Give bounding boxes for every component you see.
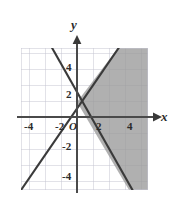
x-axis-label: x [161, 110, 168, 123]
origin-label: O [69, 121, 77, 132]
y-tick-neg4: -4 [62, 171, 71, 182]
y-axis-arrowhead [73, 35, 82, 44]
x-tick-pos4: 4 [127, 121, 133, 132]
y-tick-pos2: 2 [66, 89, 72, 100]
y-axis-label: y [71, 18, 77, 31]
graph-figure: y x -4 -2 O 2 4 4 2 -2 -4 [0, 0, 174, 201]
y-tick-pos4: 4 [66, 62, 72, 73]
x-tick-pos2: 2 [96, 121, 102, 132]
y-tick-neg2: -2 [62, 141, 71, 152]
x-tick-neg2: -2 [55, 121, 64, 132]
x-tick-neg4: -4 [24, 121, 33, 132]
coordinate-plane-svg [0, 0, 174, 201]
